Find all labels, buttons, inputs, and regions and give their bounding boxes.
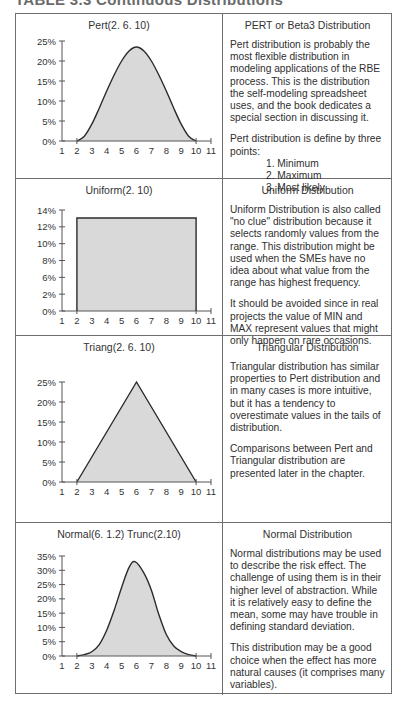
svg-text:6: 6: [134, 315, 139, 326]
svg-text:1: 1: [59, 660, 64, 671]
svg-text:4: 4: [104, 660, 109, 671]
table-row-pert: Pert(2. 6. 10) 0%5%10%15%20%25%123456789…: [16, 14, 391, 179]
svg-text:3: 3: [89, 660, 94, 671]
description-paragraph: Uniform Distribution is also called "no …: [230, 204, 385, 289]
svg-text:9: 9: [179, 145, 184, 156]
svg-text:10: 10: [191, 145, 202, 156]
svg-text:5: 5: [119, 315, 124, 326]
table-row-normal: Normal(6. 1.2) Trunc(2.10) 0%5%10%15%20%…: [16, 523, 391, 695]
svg-text:12%: 12%: [37, 221, 57, 232]
svg-text:20%: 20%: [37, 593, 57, 604]
svg-text:30%: 30%: [37, 565, 57, 576]
svg-text:9: 9: [179, 315, 184, 326]
svg-text:14%: 14%: [37, 205, 57, 216]
svg-text:20%: 20%: [37, 397, 57, 408]
svg-text:2: 2: [74, 660, 79, 671]
svg-text:10%: 10%: [37, 96, 57, 107]
svg-text:6%: 6%: [42, 272, 56, 283]
svg-text:25%: 25%: [37, 36, 57, 47]
description-paragraph: Triangular distribution has similar prop…: [230, 361, 385, 434]
svg-text:6: 6: [134, 145, 139, 156]
description-cell: PERT or Beta3 Distribution Pert distribu…: [223, 14, 391, 178]
svg-text:4: 4: [104, 315, 109, 326]
svg-text:5%: 5%: [42, 636, 56, 647]
svg-text:20%: 20%: [37, 56, 57, 67]
svg-text:5: 5: [119, 660, 124, 671]
svg-text:10: 10: [191, 315, 202, 326]
svg-text:2%: 2%: [42, 289, 56, 300]
description-cell: Normal Distribution Normal distributions…: [223, 523, 391, 695]
svg-text:15%: 15%: [37, 608, 57, 619]
svg-text:3: 3: [89, 145, 94, 156]
svg-text:8: 8: [164, 660, 169, 671]
svg-text:1: 1: [59, 315, 64, 326]
list-item: 1. Minimum: [266, 158, 385, 170]
normal-chart: 0%5%10%15%20%25%30%35%1234567891011: [16, 523, 223, 695]
svg-text:4: 4: [104, 486, 109, 497]
svg-text:11: 11: [206, 486, 216, 497]
description-paragraph: Pert distribution is probably the most f…: [230, 39, 385, 124]
svg-text:7: 7: [149, 660, 154, 671]
svg-text:3: 3: [89, 486, 94, 497]
svg-text:0%: 0%: [42, 136, 56, 147]
svg-text:25%: 25%: [37, 377, 57, 388]
svg-text:2: 2: [74, 145, 79, 156]
distribution-title: Uniform Distribution: [230, 184, 385, 196]
svg-text:10%: 10%: [37, 437, 57, 448]
svg-text:9: 9: [179, 660, 184, 671]
svg-text:7: 7: [149, 145, 154, 156]
svg-text:25%: 25%: [37, 579, 57, 590]
distribution-title: PERT or Beta3 Distribution: [230, 19, 385, 31]
svg-text:35%: 35%: [37, 551, 57, 562]
svg-text:6: 6: [134, 660, 139, 671]
table-row-uniform: Uniform(2. 10) 0%2%6%8%10%12%14%12345678…: [16, 179, 391, 336]
svg-text:10: 10: [191, 660, 202, 671]
description-paragraph: Pert distribution is define by three poi…: [230, 133, 385, 157]
table-caption: TABLE 3.3 Continuous Distributions: [15, 0, 283, 8]
description-paragraph: Comparisons between Pert and Triangular …: [230, 443, 385, 480]
distribution-title: Triangular Distribution: [230, 341, 385, 353]
svg-text:6: 6: [134, 486, 139, 497]
svg-text:10%: 10%: [37, 622, 57, 633]
description-paragraph: Normal distributions may be used to desc…: [230, 548, 385, 633]
description-cell: Uniform Distribution Uniform Distributio…: [223, 179, 391, 335]
svg-text:0%: 0%: [42, 477, 56, 488]
uniform-chart: 0%2%6%8%10%12%14%1234567891011: [16, 179, 223, 336]
svg-text:8: 8: [164, 486, 169, 497]
svg-text:7: 7: [149, 315, 154, 326]
description-cell: Triangular Distribution Triangular distr…: [223, 336, 391, 522]
svg-text:5: 5: [119, 486, 124, 497]
svg-text:5%: 5%: [42, 116, 56, 127]
chart-cell: Triang(2. 6. 10) 0%5%10%15%20%25%1234567…: [16, 336, 223, 522]
svg-text:7: 7: [149, 486, 154, 497]
pert-chart: 0%5%10%15%20%25%1234567891011: [16, 14, 223, 179]
svg-text:15%: 15%: [37, 417, 57, 428]
svg-text:10%: 10%: [37, 238, 57, 249]
triangular-chart: 0%5%10%15%20%25%1234567891011: [16, 336, 223, 523]
chart-cell: Pert(2. 6. 10) 0%5%10%15%20%25%123456789…: [16, 14, 223, 178]
svg-text:4: 4: [104, 145, 109, 156]
chart-cell: Uniform(2. 10) 0%2%6%8%10%12%14%12345678…: [16, 179, 223, 335]
svg-text:15%: 15%: [37, 76, 57, 87]
svg-text:2: 2: [74, 486, 79, 497]
svg-text:0%: 0%: [42, 306, 56, 317]
chart-cell: Normal(6. 1.2) Trunc(2.10) 0%5%10%15%20%…: [16, 523, 223, 695]
svg-text:11: 11: [206, 315, 216, 326]
svg-text:10: 10: [191, 486, 202, 497]
svg-text:8%: 8%: [42, 255, 56, 266]
svg-text:11: 11: [206, 660, 216, 671]
svg-text:11: 11: [206, 145, 216, 156]
svg-text:5%: 5%: [42, 457, 56, 468]
svg-text:8: 8: [164, 145, 169, 156]
svg-text:3: 3: [89, 315, 94, 326]
svg-text:5: 5: [119, 145, 124, 156]
table-row-triangular: Triang(2. 6. 10) 0%5%10%15%20%25%1234567…: [16, 336, 391, 523]
svg-text:1: 1: [59, 145, 64, 156]
distribution-title: Normal Distribution: [230, 528, 385, 540]
svg-text:1: 1: [59, 486, 64, 497]
svg-text:0%: 0%: [42, 651, 56, 662]
svg-text:2: 2: [74, 315, 79, 326]
description-paragraph: This distribution may be a good choice w…: [230, 642, 385, 691]
svg-text:8: 8: [164, 315, 169, 326]
svg-text:9: 9: [179, 486, 184, 497]
